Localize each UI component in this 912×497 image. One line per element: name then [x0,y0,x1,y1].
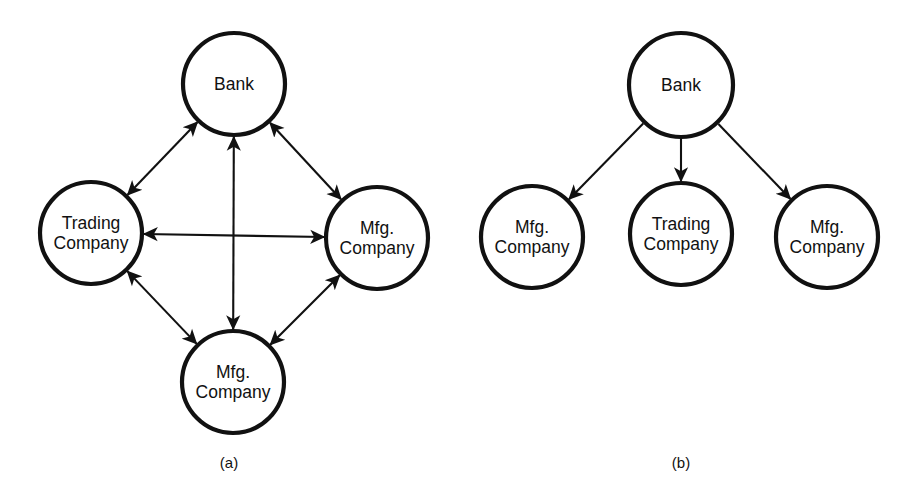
node-label-line: Mfg. [515,217,549,237]
edge-a-trading-to-a-mfg-bottom [128,271,197,343]
node-b-bank[interactable]: Bank [629,33,733,137]
node-b-mfg-right[interactable]: Mfg.Company [776,186,878,288]
node-label-line: Company [54,233,129,253]
node-label-line: Trading [652,214,711,234]
nodes-layer: BankTradingCompanyMfg.CompanyMfg.Company… [40,33,878,433]
node-b-mfg-left[interactable]: Mfg.Company [481,186,583,288]
edge-a-bank-to-a-trading [128,122,198,195]
diagram-svg: BankTradingCompanyMfg.CompanyMfg.Company… [0,0,912,497]
panel-caption-panel-b: (b) [672,454,690,471]
node-label-a-trading: TradingCompany [54,213,129,253]
node-label-line: Company [196,382,271,402]
node-label-line: Bank [214,74,254,94]
node-a-mfg-right[interactable]: Mfg.Company [326,187,428,289]
node-a-mfg-bottom[interactable]: Mfg.Company [182,331,284,433]
node-label-line: Company [495,237,570,257]
node-label-b-bank: Bank [661,75,701,95]
node-label-line: Mfg. [360,218,394,238]
edge-b-bank-to-b-mfg-right [718,124,790,199]
node-label-line: Trading [62,213,121,233]
figure-canvas: BankTradingCompanyMfg.CompanyMfg.Company… [0,0,912,497]
node-label-line: Mfg. [810,217,844,237]
node-label-line: Mfg. [216,362,250,382]
node-label-line: Company [340,238,415,258]
node-label-a-bank: Bank [214,74,254,94]
edge-a-bank-to-a-mfg-bottom [233,137,234,329]
edge-a-bank-to-a-mfg-right [270,123,341,199]
edge-b-bank-to-b-mfg-left [569,124,643,200]
node-b-trading[interactable]: TradingCompany [630,183,732,285]
node-label-line: Bank [661,75,701,95]
panel-caption-panel-a: (a) [220,454,238,471]
node-label-b-trading: TradingCompany [644,214,719,254]
node-label-line: Company [644,234,719,254]
node-label-line: Company [790,237,865,257]
captions-layer: (a)(b) [220,454,690,471]
node-a-trading[interactable]: TradingCompany [40,182,142,284]
edge-a-mfg-bottom-to-a-mfg-right [270,275,339,344]
node-a-bank[interactable]: Bank [183,33,285,135]
